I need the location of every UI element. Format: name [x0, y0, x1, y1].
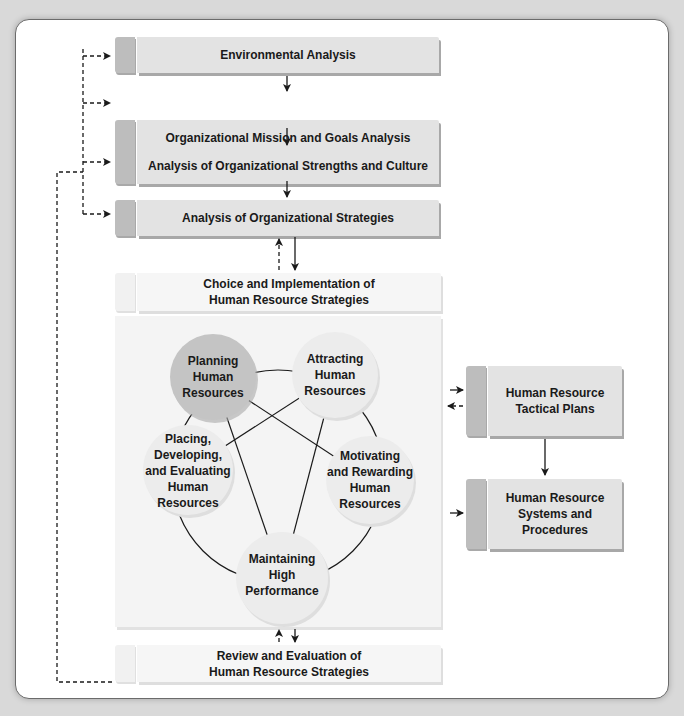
- circle-motivating-rewarding: Motivating and Rewarding Human Resources: [315, 447, 425, 513]
- circle-text: High: [269, 567, 296, 583]
- circle-text: Maintaining: [249, 551, 316, 567]
- circle-text: Performance: [245, 583, 318, 599]
- circle-text: Resources: [157, 495, 218, 511]
- circle-placing-developing-evaluating: Placing, Developing, and Evaluating Huma…: [133, 430, 243, 512]
- circle-text: Attracting: [307, 351, 364, 367]
- circle-text: and Rewarding: [327, 464, 413, 480]
- circle-text: Human: [193, 369, 234, 385]
- circle-text: Human: [350, 480, 391, 496]
- circle-text: Human: [168, 479, 209, 495]
- circle-maintaining-high-performance: Maintaining High Performance: [227, 548, 337, 602]
- circle-text: Human: [315, 367, 356, 383]
- circle-text: Motivating: [340, 448, 400, 464]
- circle-text: Placing,: [165, 431, 211, 447]
- circle-text: and Evaluating: [145, 463, 230, 479]
- circle-planning-human-resources: Planning Human Resources: [163, 347, 263, 407]
- circle-text: Planning: [188, 353, 239, 369]
- circle-text: Resources: [304, 383, 365, 399]
- circle-text: Developing,: [154, 447, 222, 463]
- circle-text: Resources: [339, 496, 400, 512]
- circle-attracting-human-resources: Attracting Human Resources: [285, 345, 385, 405]
- circle-text: Resources: [182, 385, 243, 401]
